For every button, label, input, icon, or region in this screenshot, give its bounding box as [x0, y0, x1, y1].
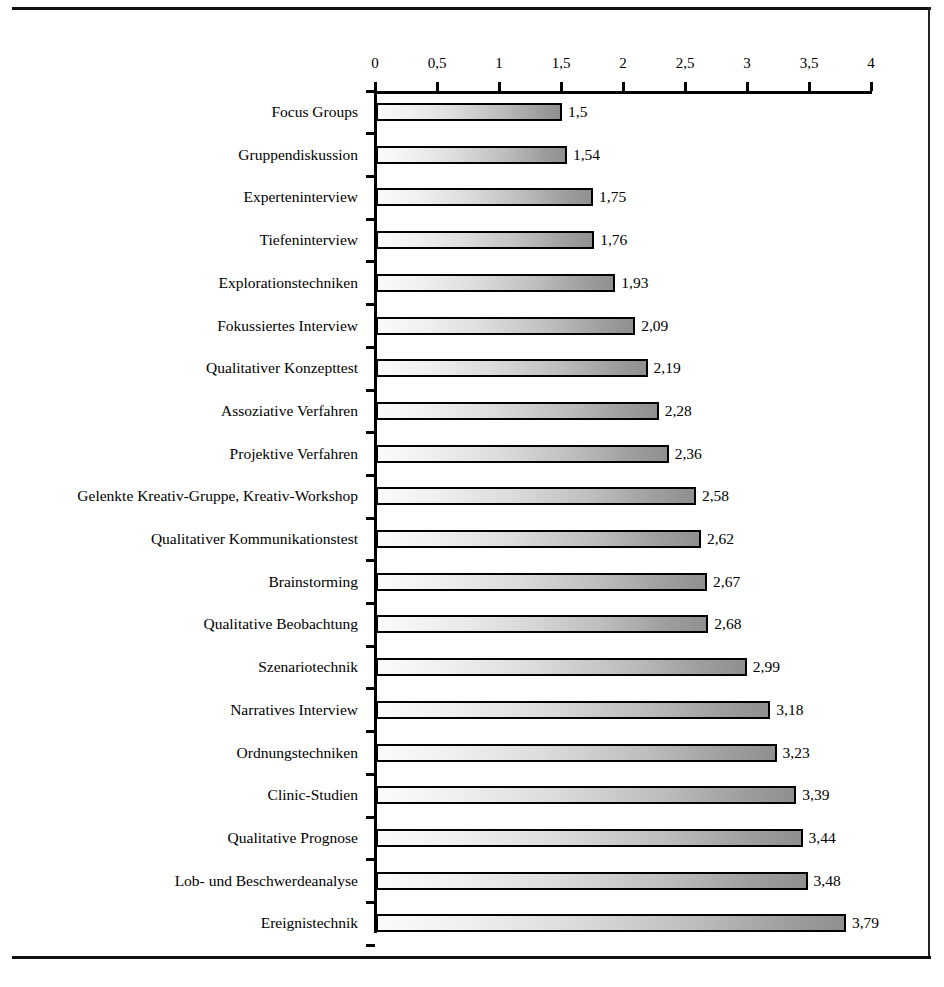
category-label: Tiefeninterview — [0, 231, 358, 249]
x-axis-tick-label: 1,5 — [531, 56, 591, 71]
bar-row: Ereignistechnik3,79 — [0, 914, 944, 932]
category-label: Projektive Verfahren — [0, 445, 358, 463]
bar — [376, 274, 615, 292]
bar — [376, 786, 796, 804]
bar-value-label: 2,99 — [753, 658, 780, 676]
category-label: Focus Groups — [0, 103, 358, 121]
bar — [376, 317, 635, 335]
category-label: Narratives Interview — [0, 701, 358, 719]
category-label: Gruppendiskussion — [0, 146, 358, 164]
bar-value-label: 3,48 — [814, 872, 841, 890]
category-label: Lob- und Beschwerdeanalyse — [0, 872, 358, 890]
bar-value-label: 3,23 — [783, 744, 810, 762]
bar — [376, 615, 708, 633]
bar — [376, 530, 701, 548]
bar-value-label: 2,67 — [713, 573, 740, 591]
bar-value-label: 1,93 — [621, 274, 648, 292]
x-axis-tick-label: 2,5 — [655, 56, 715, 71]
category-label: Ereignistechnik — [0, 914, 358, 932]
bar — [376, 445, 669, 463]
category-label: Assoziative Verfahren — [0, 402, 358, 420]
category-label: Qualitative Beobachtung — [0, 615, 358, 633]
bar-value-label: 2,28 — [665, 402, 692, 420]
y-axis-tick — [366, 602, 375, 605]
category-label: Qualitative Prognose — [0, 829, 358, 847]
y-axis-tick — [366, 901, 375, 904]
bar-row: Fokussiertes Interview2,09 — [0, 317, 944, 335]
y-axis-tick — [366, 645, 375, 648]
bar — [376, 573, 707, 591]
bar — [376, 359, 648, 377]
bar-row: Focus Groups1,5 — [0, 103, 944, 121]
bar-value-label: 2,36 — [675, 445, 702, 463]
bar-value-label: 3,18 — [776, 701, 803, 719]
y-axis-tick — [366, 175, 375, 178]
bar — [376, 829, 803, 847]
bar-row: Gelenkte Kreativ-Gruppe, Kreativ-Worksho… — [0, 487, 944, 505]
y-axis-tick — [366, 858, 375, 861]
bar — [376, 103, 562, 121]
horizontal-bar-chart: 00,511,522,533,54 Focus Groups1,5Gruppen… — [0, 0, 944, 987]
x-axis-tick-label: 3 — [717, 56, 777, 71]
y-axis-tick — [366, 944, 375, 947]
bar — [376, 146, 567, 164]
bar-row: Qualitativer Kommunikationstest2,62 — [0, 530, 944, 548]
bar-row: Tiefeninterview1,76 — [0, 231, 944, 249]
bar — [376, 658, 747, 676]
bar — [376, 188, 593, 206]
bar-value-label: 3,79 — [852, 914, 879, 932]
bar-value-label: 1,54 — [573, 146, 600, 164]
bar-row: Qualitativer Konzepttest2,19 — [0, 359, 944, 377]
bar-value-label: 2,62 — [707, 530, 734, 548]
y-axis-tick — [366, 730, 375, 733]
bar-value-label: 2,68 — [714, 615, 741, 633]
category-label: Brainstorming — [0, 573, 358, 591]
category-label: Clinic-Studien — [0, 786, 358, 804]
x-axis-line — [374, 91, 872, 94]
y-axis-tick — [366, 517, 375, 520]
bar-row: Szenariotechnik2,99 — [0, 658, 944, 676]
category-label: Qualitativer Konzepttest — [0, 359, 358, 377]
bar — [376, 487, 696, 505]
y-axis-tick — [366, 559, 375, 562]
y-axis-tick — [366, 389, 375, 392]
bar-value-label: 1,5 — [568, 103, 587, 121]
bar-row: Narratives Interview3,18 — [0, 701, 944, 719]
bar-value-label: 2,58 — [702, 487, 729, 505]
bar-row: Gruppendiskussion1,54 — [0, 146, 944, 164]
bar-row: Clinic-Studien3,39 — [0, 786, 944, 804]
bar-row: Assoziative Verfahren2,28 — [0, 402, 944, 420]
page-canvas: 00,511,522,533,54 Focus Groups1,5Gruppen… — [0, 0, 944, 987]
bar-row: Lob- und Beschwerdeanalyse3,48 — [0, 872, 944, 890]
bar — [376, 914, 846, 932]
x-axis-tick — [746, 82, 749, 91]
bar-value-label: 1,75 — [599, 188, 626, 206]
category-label: Experteninterview — [0, 188, 358, 206]
x-axis-tick — [870, 82, 873, 91]
bar-value-label: 3,44 — [809, 829, 836, 847]
bar-row: Qualitative Prognose3,44 — [0, 829, 944, 847]
bar — [376, 744, 777, 762]
x-axis-tick — [622, 82, 625, 91]
x-axis-tick-label: 4 — [841, 56, 901, 71]
bar-value-label: 1,76 — [600, 231, 627, 249]
bar-row: Experteninterview1,75 — [0, 188, 944, 206]
bar — [376, 872, 808, 890]
x-axis-tick — [436, 82, 439, 91]
bar-row: Qualitative Beobachtung2,68 — [0, 615, 944, 633]
x-axis-tick-label: 3,5 — [779, 56, 839, 71]
category-label: Explorationstechniken — [0, 274, 358, 292]
y-axis-tick — [366, 816, 375, 819]
x-axis-tick-label: 2 — [593, 56, 653, 71]
bar-row: Ordnungstechniken3,23 — [0, 744, 944, 762]
category-label: Ordnungstechniken — [0, 744, 358, 762]
x-axis-tick-label: 0,5 — [407, 56, 467, 71]
y-axis-tick — [366, 431, 375, 434]
y-axis-tick — [366, 773, 375, 776]
bar-row: Projektive Verfahren2,36 — [0, 445, 944, 463]
y-axis-tick — [366, 218, 375, 221]
x-axis-tick — [808, 82, 811, 91]
y-axis-tick — [366, 90, 375, 93]
bar — [376, 701, 770, 719]
bar-value-label: 2,09 — [641, 317, 668, 335]
